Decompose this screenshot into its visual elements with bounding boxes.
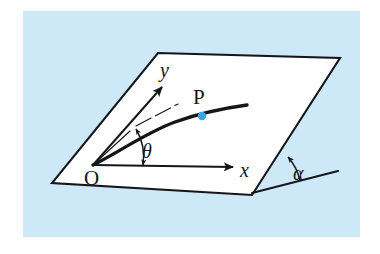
x-axis-label: x bbox=[239, 159, 249, 181]
point-p-marker bbox=[198, 112, 206, 120]
inclined-plane-diagram: O x y P θ α bbox=[0, 0, 380, 254]
y-axis-label: y bbox=[158, 59, 169, 82]
origin-label: O bbox=[84, 166, 99, 190]
point-p-label: P bbox=[193, 85, 205, 109]
figure-container: O x y P θ α bbox=[0, 0, 380, 254]
theta-angle-label: θ bbox=[142, 140, 152, 162]
alpha-angle-label: α bbox=[293, 162, 304, 184]
